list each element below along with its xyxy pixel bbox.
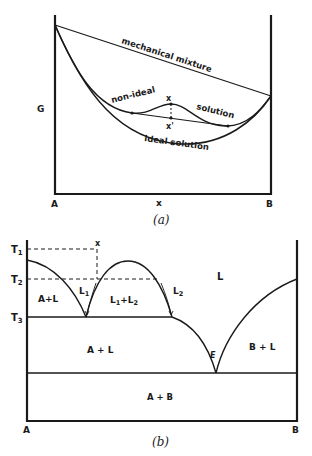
- t2-label: T2: [11, 274, 23, 287]
- composition-x-label: x: [95, 239, 101, 248]
- panel-b: T1 T2 T3 x L A+L L1 L1+L2 L2 A + L B + L…: [11, 239, 299, 449]
- mechanical-mixture-label: mechanical mixture: [120, 35, 213, 74]
- g-axis-label: G: [37, 104, 44, 114]
- phase-diagram-figure: x x' mechanical mixture non-ideal soluti…: [0, 0, 312, 456]
- l1-label: L1: [79, 286, 90, 298]
- b-liquidus: [216, 279, 297, 373]
- region-l1-plus-l2: L1+L2: [110, 295, 138, 307]
- region-a-plus-l-upper: A+L: [38, 294, 59, 304]
- tangent-point-right: [226, 124, 229, 127]
- l2-label: L2: [173, 286, 183, 298]
- point-x-label: x: [166, 94, 172, 103]
- panel-b-label-b: B: [292, 425, 299, 435]
- panel-a-x-mark: x: [156, 198, 162, 208]
- region-liquid: L: [217, 271, 224, 282]
- a-liquidus-upper: [27, 260, 86, 317]
- a-liquidus-lower: [172, 317, 216, 373]
- non-ideal-label: non-ideal: [110, 84, 156, 105]
- panel-a-label-b: B: [266, 199, 273, 209]
- solution-label: solution: [196, 101, 236, 120]
- eutectic-label: E: [210, 351, 216, 360]
- miscibility-gap-dome: [86, 261, 172, 317]
- point-x-prime: [169, 116, 172, 119]
- point-x-prime-label: x': [166, 122, 174, 131]
- non-ideal-solution-curve: [55, 25, 271, 126]
- region-a-plus-l-lower: A + L: [87, 345, 114, 355]
- panel-a-label-a: A: [51, 199, 58, 209]
- tangent-point-left: [130, 111, 133, 114]
- panel-b-caption: (b): [152, 435, 169, 449]
- panel-a-caption: (a): [153, 213, 170, 227]
- t1-label: T1: [11, 244, 23, 257]
- region-a-plus-b: A + B: [147, 392, 173, 402]
- region-b-plus-l: B + L: [249, 342, 276, 352]
- panel-a: x x' mechanical mixture non-ideal soluti…: [37, 15, 273, 227]
- panel-b-label-a: A: [23, 425, 30, 435]
- t3-label: T3: [11, 312, 23, 325]
- l1-path-arrow: [87, 283, 96, 314]
- ideal-solution-label: ideal solution: [144, 133, 210, 152]
